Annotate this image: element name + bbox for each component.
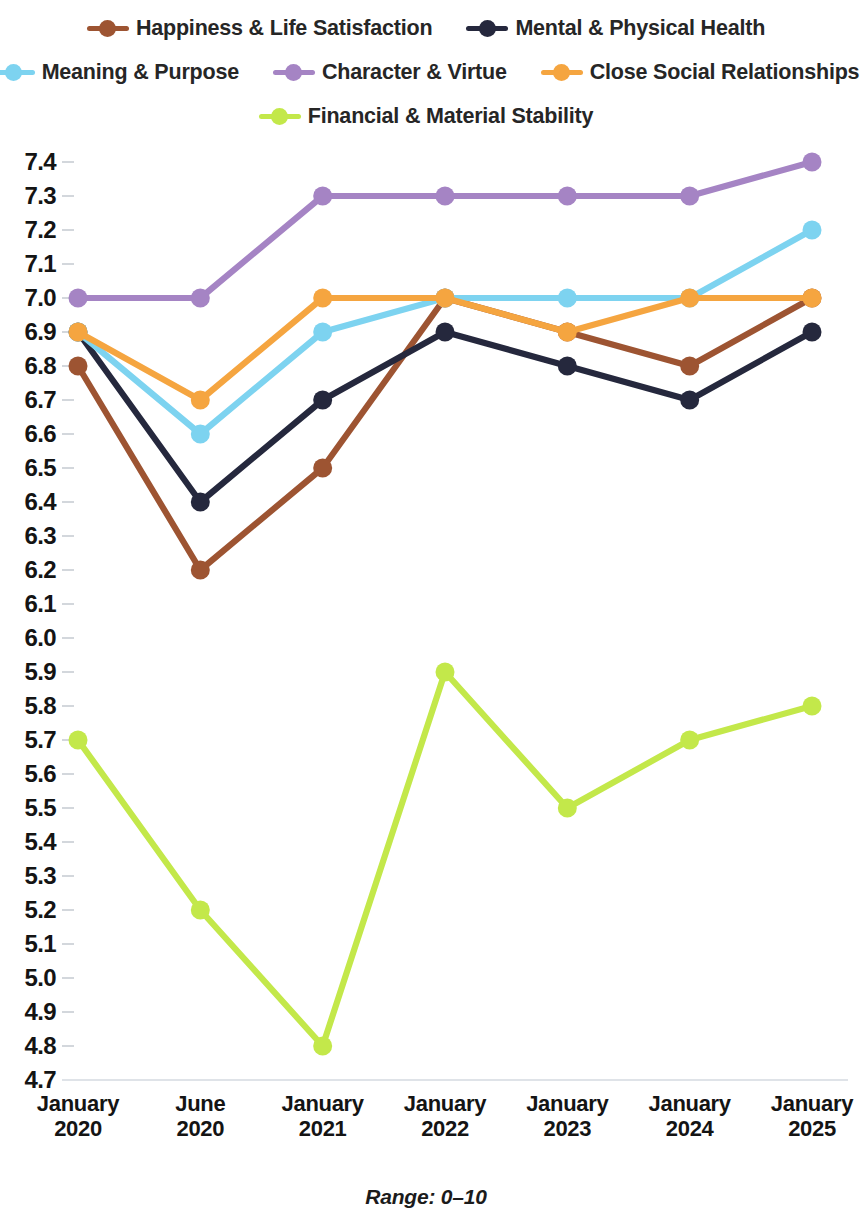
data-point[interactable] xyxy=(191,493,210,512)
x-axis-tick-line: 2020 xyxy=(130,1117,270,1142)
legend-row: Happiness & Life SatisfactionMental & Ph… xyxy=(0,6,852,50)
data-point[interactable] xyxy=(803,323,822,342)
data-point[interactable] xyxy=(69,357,88,376)
x-axis-tick-line: January xyxy=(742,1092,864,1117)
chart-legend: Happiness & Life SatisfactionMental & Ph… xyxy=(0,0,852,138)
x-axis-tick-line: January xyxy=(497,1092,637,1117)
data-point[interactable] xyxy=(313,289,332,308)
x-axis-tick-labels: January2020June2020January2021January202… xyxy=(0,1088,852,1163)
legend-item-label: Happiness & Life Satisfaction xyxy=(136,16,432,41)
x-axis-tick-line: January xyxy=(253,1092,393,1117)
legend-item-character[interactable]: Character & Virtue xyxy=(273,60,507,85)
x-axis-tick-label: January2021 xyxy=(253,1092,393,1141)
x-axis-tick-line: 2021 xyxy=(253,1117,393,1142)
x-axis-tick-line: 2023 xyxy=(497,1117,637,1142)
data-point[interactable] xyxy=(680,731,699,750)
legend-item-financial[interactable]: Financial & Material Stability xyxy=(259,104,594,129)
series-6 xyxy=(69,663,822,1056)
x-axis-tick-line: 2024 xyxy=(620,1117,760,1142)
data-point[interactable] xyxy=(313,1037,332,1056)
data-point[interactable] xyxy=(558,323,577,342)
data-point[interactable] xyxy=(680,357,699,376)
x-axis-tick-line: June xyxy=(130,1092,270,1117)
x-axis-tick-label: January2020 xyxy=(8,1092,148,1141)
data-point[interactable] xyxy=(803,697,822,716)
legend-row: Meaning & PurposeCharacter & VirtueClose… xyxy=(0,50,852,94)
data-point[interactable] xyxy=(558,799,577,818)
x-axis-tick-label: June2020 xyxy=(130,1092,270,1141)
legend-swatch-health-icon xyxy=(466,18,508,38)
data-point[interactable] xyxy=(191,425,210,444)
data-point[interactable] xyxy=(313,391,332,410)
legend-item-relationships[interactable]: Close Social Relationships xyxy=(541,60,860,85)
legend-swatch-meaning-icon xyxy=(0,62,35,82)
legend-item-meaning[interactable]: Meaning & Purpose xyxy=(0,60,239,85)
data-point[interactable] xyxy=(680,391,699,410)
legend-item-label: Financial & Material Stability xyxy=(308,104,594,129)
legend-item-label: Mental & Physical Health xyxy=(515,16,765,41)
legend-swatch-character-icon xyxy=(273,62,315,82)
data-point[interactable] xyxy=(436,663,455,682)
series-line xyxy=(78,162,812,298)
legend-swatch-relationships-icon xyxy=(541,62,583,82)
data-point[interactable] xyxy=(680,187,699,206)
data-point[interactable] xyxy=(436,187,455,206)
data-point[interactable] xyxy=(436,323,455,342)
x-axis-tick-line: 2020 xyxy=(8,1117,148,1142)
legend-swatch-financial-icon xyxy=(259,106,301,126)
x-axis-tick-label: January2024 xyxy=(620,1092,760,1141)
data-point[interactable] xyxy=(191,391,210,410)
legend-swatch-happiness-icon xyxy=(87,18,129,38)
series-line xyxy=(78,672,812,1046)
legend-item-health[interactable]: Mental & Physical Health xyxy=(466,16,765,41)
x-axis-tick-line: January xyxy=(620,1092,760,1117)
x-axis-tick-label: January2023 xyxy=(497,1092,637,1141)
data-point[interactable] xyxy=(191,289,210,308)
data-point[interactable] xyxy=(313,459,332,478)
x-axis-tick-label: January2022 xyxy=(375,1092,515,1141)
data-point[interactable] xyxy=(558,187,577,206)
data-point[interactable] xyxy=(191,561,210,580)
chart-range-caption: Range: 0–10 xyxy=(0,1163,852,1209)
data-point[interactable] xyxy=(680,289,699,308)
legend-item-happiness[interactable]: Happiness & Life Satisfaction xyxy=(87,16,432,41)
x-axis-tick-line: 2022 xyxy=(375,1117,515,1142)
x-axis-tick-line: January xyxy=(8,1092,148,1117)
x-axis-tick-line: 2025 xyxy=(742,1117,864,1142)
legend-item-label: Character & Virtue xyxy=(322,60,507,85)
chart-plot-area: 7.47.37.27.17.06.96.86.76.66.56.46.36.26… xyxy=(0,138,852,1088)
data-point[interactable] xyxy=(558,357,577,376)
legend-row: Financial & Material Stability xyxy=(0,94,852,138)
series-line xyxy=(78,298,812,400)
legend-item-label: Close Social Relationships xyxy=(590,60,860,85)
data-point[interactable] xyxy=(69,731,88,750)
x-axis-tick-line: January xyxy=(375,1092,515,1117)
x-axis-tick-label: January2025 xyxy=(742,1092,864,1141)
data-point[interactable] xyxy=(803,289,822,308)
legend-item-label: Meaning & Purpose xyxy=(42,60,239,85)
data-point[interactable] xyxy=(436,289,455,308)
data-point[interactable] xyxy=(558,289,577,308)
data-point[interactable] xyxy=(69,289,88,308)
data-point[interactable] xyxy=(313,323,332,342)
data-point[interactable] xyxy=(803,221,822,240)
data-point[interactable] xyxy=(803,153,822,172)
line-chart-svg xyxy=(0,138,852,1088)
data-point[interactable] xyxy=(313,187,332,206)
data-point[interactable] xyxy=(69,323,88,342)
data-point[interactable] xyxy=(191,901,210,920)
